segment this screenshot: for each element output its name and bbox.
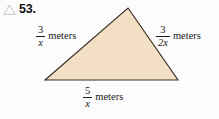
problem-figure-page: 53. 3 x meters 3 2x meters 5 x meters (0, 0, 219, 119)
fraction-denominator: 2x (156, 37, 170, 48)
unit-label-right: meters (173, 31, 201, 42)
fraction-numerator: 3 (158, 25, 167, 36)
label-left-side: 3 x meters (36, 25, 76, 48)
unit-label-left: meters (48, 31, 76, 42)
label-right-side: 3 2x meters (156, 25, 201, 48)
fraction-denominator: x (83, 98, 92, 109)
label-bottom-side: 5 x meters (83, 86, 123, 109)
fraction-bottom: 5 x (83, 86, 92, 109)
fraction-denominator: x (36, 37, 45, 48)
unit-label-bottom: meters (95, 92, 123, 103)
fraction-right: 3 2x (156, 25, 170, 48)
fraction-numerator: 3 (36, 25, 45, 36)
fraction-numerator: 5 (83, 86, 92, 97)
fraction-left: 3 x (36, 25, 45, 48)
